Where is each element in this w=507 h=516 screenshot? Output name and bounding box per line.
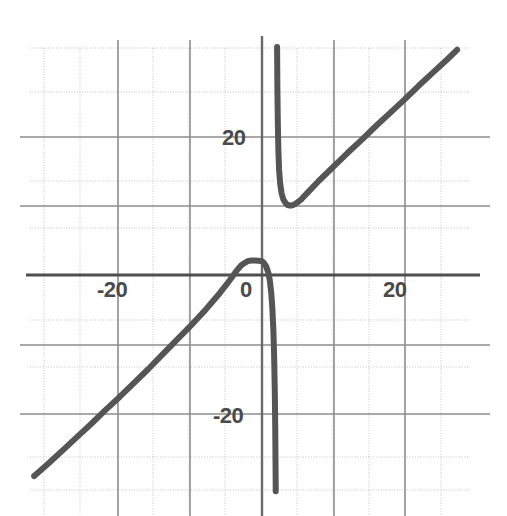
y-axis-tick-label-neg20: -20 <box>213 403 243 429</box>
curve-right-branch <box>277 47 457 206</box>
minor-gridlines-horizontal <box>30 48 470 490</box>
x-axis-tick-label-neg20: -20 <box>97 277 127 303</box>
chart-container: -20 0 20 20 -20 <box>0 0 507 516</box>
y-axis-tick-label-20: 20 <box>222 125 245 151</box>
chart-plot-area <box>0 0 507 516</box>
x-axis-tick-label-20: 20 <box>383 277 406 303</box>
x-axis-tick-label-zero: 0 <box>240 277 252 303</box>
